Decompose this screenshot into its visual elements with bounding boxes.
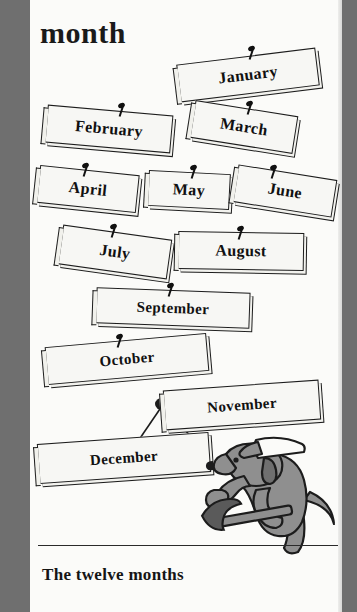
month-sign-label: March [219,114,269,139]
nail-icon [248,46,262,60]
month-sign-label: November [207,394,278,416]
month-sign-february: February [45,105,174,154]
month-sign-label: May [172,180,205,200]
nail-icon [110,224,124,238]
month-sign-may: May [147,170,231,210]
dictionary-page: month JanuaryFebruaryMarchAprilMayJuneJu… [30,0,342,612]
month-sign-label: June [267,179,304,202]
nail-icon [116,334,130,348]
nail-icon [118,103,132,117]
month-sign-label: January [217,62,278,87]
nail-icon [190,165,204,179]
month-sign-june: June [233,164,338,217]
nail-icon [167,283,181,297]
month-sign-label: February [74,117,143,141]
nail-icon [237,226,251,240]
dog-with-hammer [200,418,340,560]
month-sign-label: December [89,447,158,469]
month-sign-label: October [99,348,156,370]
nail-icon [82,163,96,177]
page-root: month JanuaryFebruaryMarchAprilMayJuneJu… [0,0,357,612]
month-sign-march: March [190,100,299,154]
nail-icon [270,165,284,179]
month-sign-label: August [215,242,267,261]
illustration-caption: The twelve months [42,565,184,585]
month-sign-label: July [98,241,131,263]
month-sign-label: September [136,298,209,318]
caption-divider [38,545,338,546]
illustration-area: JanuaryFebruaryMarchAprilMayJuneJulyAugu… [30,0,342,560]
month-sign-december: December [37,432,211,484]
nail-icon [246,101,260,115]
month-sign-label: April [68,178,108,200]
